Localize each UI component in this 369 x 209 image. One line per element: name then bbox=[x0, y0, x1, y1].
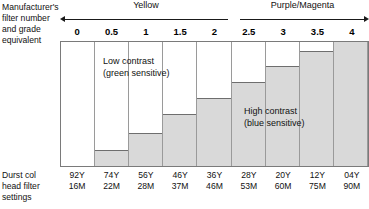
chart-column bbox=[300, 42, 334, 166]
range-group-purple: Purple/Magenta bbox=[236, 0, 369, 22]
filter-yellow-value: 20Y bbox=[266, 170, 300, 181]
grade-number-row: 0 0.5 1 1.5 2 2.5 3 3.5 4 bbox=[60, 25, 369, 39]
grade-tick: 2 bbox=[197, 25, 231, 39]
filter-magenta-value: 46M bbox=[197, 181, 231, 192]
bar-segment bbox=[95, 150, 128, 166]
chart-figure: Manufacturer's filter number and grade e… bbox=[0, 0, 369, 209]
grade-tick: 2.5 bbox=[232, 25, 266, 39]
grade-tick: 0.5 bbox=[94, 25, 128, 39]
yellow-range-arrow-icon bbox=[60, 16, 232, 23]
purple-range-arrow-icon bbox=[236, 16, 369, 23]
filter-settings-row: 92Y 16M 74Y 22M 56Y 28M 46Y 37M 36Y 46M … bbox=[60, 170, 369, 194]
filter-magenta-value: 37M bbox=[163, 181, 197, 192]
chart-column bbox=[266, 42, 300, 166]
filter-settings-caption: Durst col head filter settings bbox=[2, 170, 66, 203]
filter-yellow-value: 12Y bbox=[300, 170, 334, 181]
grade-tick: 4 bbox=[335, 25, 369, 39]
range-group-yellow: Yellow bbox=[60, 0, 232, 22]
filter-magenta-value: 22M bbox=[94, 181, 128, 192]
filter-magenta-value: 16M bbox=[60, 181, 94, 192]
filter-yellow-value: 46Y bbox=[163, 170, 197, 181]
filter-yellow-value: 04Y bbox=[335, 170, 369, 181]
grade-tick: 3 bbox=[266, 25, 300, 39]
filter-setting-cell: 12Y 75M bbox=[300, 170, 334, 194]
filter-yellow-value: 56Y bbox=[129, 170, 163, 181]
filter-setting-cell: 46Y 37M bbox=[163, 170, 197, 194]
filter-setting-cell: 56Y 28M bbox=[129, 170, 163, 194]
chart-column bbox=[61, 42, 95, 166]
bar-segment bbox=[129, 133, 162, 166]
filter-magenta-value: 90M bbox=[335, 181, 369, 192]
grade-tick: 1.5 bbox=[163, 25, 197, 39]
color-range-header: Yellow Purple/Magenta bbox=[60, 0, 369, 22]
filter-magenta-value: 75M bbox=[300, 181, 334, 192]
chart-column bbox=[334, 42, 368, 166]
grade-tick: 0 bbox=[60, 25, 94, 39]
bar-segment bbox=[300, 51, 333, 166]
filter-yellow-value: 36Y bbox=[197, 170, 231, 181]
filter-yellow-value: 28Y bbox=[232, 170, 266, 181]
filter-magenta-value: 28M bbox=[129, 181, 163, 192]
filter-yellow-value: 74Y bbox=[94, 170, 128, 181]
grade-tick: 3.5 bbox=[300, 25, 334, 39]
chart-column bbox=[232, 42, 266, 166]
filter-setting-cell: 28Y 53M bbox=[232, 170, 266, 194]
bar-segment bbox=[334, 42, 367, 166]
filter-magenta-value: 60M bbox=[266, 181, 300, 192]
grade-tick: 1 bbox=[129, 25, 163, 39]
filter-setting-cell: 92Y 16M bbox=[60, 170, 94, 194]
filter-magenta-value: 53M bbox=[232, 181, 266, 192]
bar-segment bbox=[163, 114, 196, 166]
filter-setting-cell: 74Y 22M bbox=[94, 170, 128, 194]
range-label-yellow: Yellow bbox=[60, 0, 232, 11]
range-label-purple-magenta: Purple/Magenta bbox=[236, 0, 369, 11]
chart-column bbox=[197, 42, 231, 166]
filter-setting-cell: 20Y 60M bbox=[266, 170, 300, 194]
grade-axis-caption: Manufacturer's filter number and grade e… bbox=[2, 2, 66, 46]
high-contrast-annotation: High contrast (blue sensitive) bbox=[244, 105, 305, 129]
staircase-bar-plot: Low contrast (green sensitive) High cont… bbox=[60, 41, 369, 167]
filter-setting-cell: 36Y 46M bbox=[197, 170, 231, 194]
bar-segment bbox=[197, 98, 230, 166]
filter-yellow-value: 92Y bbox=[60, 170, 94, 181]
filter-setting-cell: 04Y 90M bbox=[335, 170, 369, 194]
low-contrast-annotation: Low contrast (green sensitive) bbox=[103, 55, 170, 79]
